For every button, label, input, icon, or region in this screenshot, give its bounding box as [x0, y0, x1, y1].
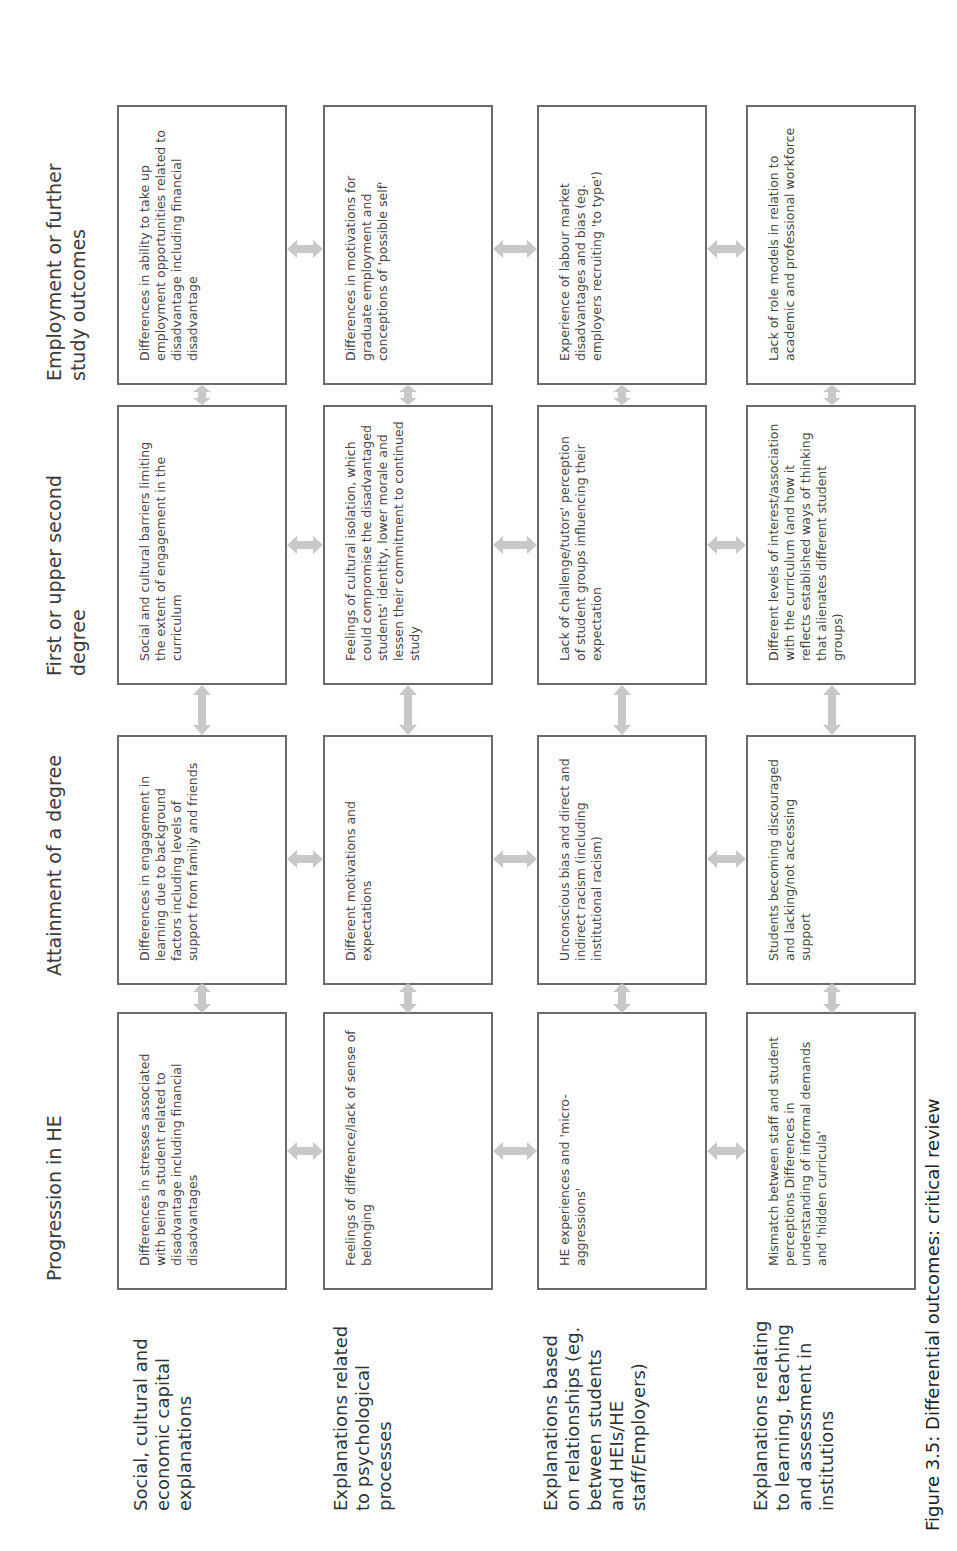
double-arrow-icon — [287, 533, 323, 557]
double-arrow-icon — [190, 385, 214, 405]
cell-social-attainment: Differences in engagement in learning du… — [117, 735, 287, 985]
double-arrow-icon — [287, 847, 323, 871]
column-header-employment: Employment or further study outcomes — [42, 121, 90, 381]
row-header-social-cultural: Social, cultural and economic capital ex… — [130, 1311, 196, 1511]
column-header-first-upper-second: First or upper second degree — [42, 416, 90, 676]
double-arrow-icon — [287, 237, 323, 261]
cell-social-progression: Differences in stresses associated with … — [117, 1012, 287, 1290]
double-arrow-icon — [190, 983, 214, 1013]
cell-psych-first-upper: Feelings of cultural isolation, which co… — [323, 405, 493, 685]
double-arrow-icon — [493, 847, 537, 871]
double-arrow-icon — [493, 1139, 537, 1163]
double-arrow-icon — [396, 685, 420, 735]
double-arrow-icon — [493, 533, 537, 557]
cell-relations-first-upper: Lack of challenge/tutors' perception of … — [537, 405, 707, 685]
double-arrow-icon — [396, 983, 420, 1013]
double-arrow-icon — [820, 983, 844, 1013]
cell-psych-attainment: Different motivations and expectations — [323, 735, 493, 985]
double-arrow-icon — [707, 533, 746, 557]
column-header-attainment: Attainment of a degree — [42, 716, 66, 976]
row-header-learning-teaching: Explanations relating to learning, teach… — [750, 1311, 838, 1511]
cell-learning-employment: Lack of role models in relation to acade… — [746, 105, 916, 385]
double-arrow-icon — [610, 685, 634, 735]
double-arrow-icon — [820, 685, 844, 735]
double-arrow-icon — [610, 385, 634, 405]
double-arrow-icon — [707, 847, 746, 871]
cell-learning-attainment: Students becoming discouraged and lackin… — [746, 735, 916, 985]
cell-relations-attainment: Unconscious bias and direct and indirect… — [537, 735, 707, 985]
column-header-progression: Progression in HE — [42, 1021, 66, 1281]
cell-learning-first-upper: Different levels of interest/association… — [746, 405, 916, 685]
row-header-psychological: Explanations related to psychological pr… — [330, 1311, 396, 1511]
double-arrow-icon — [707, 1139, 746, 1163]
double-arrow-icon — [287, 1139, 323, 1163]
double-arrow-icon — [820, 385, 844, 405]
cell-social-employment: Differences in ability to take up employ… — [117, 105, 287, 385]
double-arrow-icon — [610, 983, 634, 1013]
cell-relations-progression: HE experiences and 'micro-aggressions' — [537, 1012, 707, 1290]
cell-relations-employment: Experience of labour market disadvantage… — [537, 105, 707, 385]
cell-psych-employment: Differences in motivations for graduate … — [323, 105, 493, 385]
double-arrow-icon — [493, 237, 537, 261]
double-arrow-icon — [190, 685, 214, 735]
cell-learning-progression: Mismatch between staff and student perce… — [746, 1012, 916, 1290]
double-arrow-icon — [396, 385, 420, 405]
figure-caption: Figure 3.5: Differential outcomes: criti… — [922, 1099, 943, 1531]
cell-psych-progression: Feelings of difference/lack of sense of … — [323, 1012, 493, 1290]
diagram-canvas: Progression in HE Attainment of a degree… — [0, 0, 957, 1551]
cell-social-first-upper: Social and cultural barriers limiting th… — [117, 405, 287, 685]
double-arrow-icon — [707, 237, 746, 261]
row-header-relationships: Explanations based on relationships (eg.… — [540, 1311, 650, 1511]
